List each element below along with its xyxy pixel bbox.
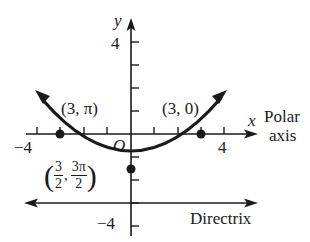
x-tick-label-4: 4	[218, 139, 227, 156]
x-axis-label: x	[248, 112, 256, 129]
point-3-0	[197, 130, 206, 139]
polar-axis-label-line1: Polar	[264, 108, 300, 125]
point-vertex	[127, 165, 136, 174]
directrix-line	[24, 199, 258, 208]
x-tick-label-neg4: −4	[14, 139, 32, 156]
y-tick-label-neg4: −4	[97, 215, 115, 232]
curve-left-arrow-icon	[35, 90, 50, 104]
point-3-pi	[56, 130, 65, 139]
point-label-vertex: ( 3 2 , 3π 2 )	[44, 160, 97, 191]
fraction-r: 3 2	[54, 160, 63, 191]
y-tick-label-4: 4	[111, 35, 120, 52]
polar-axis-label-line2: axis	[269, 127, 296, 144]
directrix-label: Directrix	[190, 210, 251, 227]
curve-right-arrow-icon	[212, 90, 227, 104]
origin-label: O	[113, 137, 125, 154]
point-label-3-0: (3, 0)	[162, 100, 199, 117]
point-label-3-pi: (3, π)	[61, 100, 98, 117]
fraction-theta: 3π 2	[71, 160, 87, 191]
y-axis-label: y	[114, 12, 122, 29]
